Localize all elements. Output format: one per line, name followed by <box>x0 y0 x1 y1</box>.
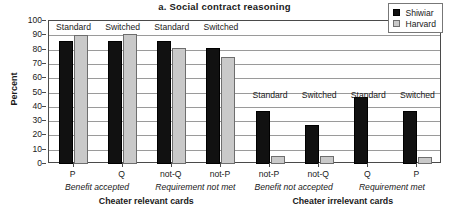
bar-harvard-5 <box>320 156 334 164</box>
y-axis-tick-label: 30 <box>33 116 42 125</box>
bar-harvard-2 <box>172 48 186 164</box>
bar-shiwiar-0 <box>59 41 73 164</box>
x-axis-tick-label: not-P <box>210 169 231 179</box>
y-axis-tick-mark <box>42 77 46 78</box>
x-axis-tick-label: not-P <box>259 169 280 179</box>
x-axis-tick-mark <box>122 163 123 167</box>
y-axis-tick-label: 20 <box>33 130 42 139</box>
y-axis-tick-mark <box>42 34 46 35</box>
y-axis-tick-mark <box>42 49 46 50</box>
chart-title: a. Social contract reasoning <box>0 1 449 12</box>
condition-annotation: Standard <box>351 90 386 100</box>
subgroup-label: Benefit accepted <box>65 182 129 192</box>
condition-annotation: Standard <box>56 22 91 32</box>
bar-shiwiar-2 <box>157 41 171 164</box>
y-axis-tick-mark <box>42 106 46 107</box>
legend-swatch-icon <box>393 9 400 16</box>
bar-harvard-7 <box>418 157 432 164</box>
subgroup-label: Benefit not accepted <box>254 182 332 192</box>
chart-legend: Shiwiar Harvard <box>388 3 443 33</box>
legend-item-harvard: Harvard <box>393 18 436 29</box>
bar-shiwiar-5 <box>305 125 319 164</box>
y-axis-tick-mark <box>42 63 46 64</box>
x-axis-tick-label: not-Q <box>160 169 182 179</box>
y-axis-tick-mark <box>42 149 46 150</box>
condition-annotation: Standard <box>253 90 288 100</box>
gridline <box>49 35 440 36</box>
bar-shiwiar-3 <box>206 48 220 164</box>
x-axis-tick-mark <box>73 163 74 167</box>
y-axis-tick-label: 50 <box>33 87 42 96</box>
x-axis-tick-label: not-Q <box>307 169 329 179</box>
bar-shiwiar-7 <box>403 111 417 164</box>
y-axis-tick-mark <box>42 163 46 164</box>
y-axis-tick-mark <box>42 134 46 135</box>
x-axis-tick-label: Q <box>118 169 125 179</box>
condition-annotation: Switched <box>302 90 337 100</box>
condition-annotation: Switched <box>105 22 140 32</box>
bar-harvard-0 <box>74 35 88 164</box>
x-axis-tick-mark <box>269 163 270 167</box>
x-axis-tick-mark <box>416 163 417 167</box>
y-axis-tick-mark <box>42 20 46 21</box>
legend-item-shiwiar: Shiwiar <box>393 7 436 18</box>
bar-harvard-1 <box>123 34 137 164</box>
legend-label: Harvard <box>405 19 436 29</box>
x-axis-tick-mark <box>367 163 368 167</box>
y-axis-tick-label: 80 <box>33 44 42 53</box>
bar-harvard-4 <box>271 156 285 164</box>
bar-shiwiar-4 <box>256 111 270 164</box>
subgroup-label: Requirement met <box>359 182 425 192</box>
y-axis-tick-label: 60 <box>33 73 42 82</box>
bar-shiwiar-1 <box>108 41 122 164</box>
y-axis-ticks: 1009080706050403020100 <box>12 20 46 163</box>
legend-label: Shiwiar <box>405 8 433 18</box>
x-axis-tick-mark <box>171 163 172 167</box>
x-axis-tick-label: P <box>414 169 420 179</box>
condition-annotation: Standard <box>154 22 189 32</box>
x-axis-tick-mark <box>220 163 221 167</box>
y-axis-tick-label: 90 <box>33 30 42 39</box>
y-axis-tick-label: 10 <box>33 144 42 153</box>
x-axis-tick-mark <box>318 163 319 167</box>
legend-swatch-icon <box>393 20 400 27</box>
group-title: Cheater relevant cards <box>99 196 194 206</box>
plot-area: StandardSwitchedStandardSwitchedStandard… <box>48 20 441 163</box>
y-axis-tick-label: 40 <box>33 102 42 111</box>
x-axis-tick-label: Q <box>364 169 371 179</box>
bar-shiwiar-6 <box>354 97 368 164</box>
condition-annotation: Switched <box>400 90 435 100</box>
x-axis-tick-label: P <box>70 169 76 179</box>
y-axis-tick-mark <box>42 120 46 121</box>
y-axis-tick-label: 70 <box>33 59 42 68</box>
chart-figure: a. Social contract reasoning Percent 100… <box>0 0 449 216</box>
bar-harvard-3 <box>221 57 235 164</box>
y-axis-tick-label: 100 <box>28 16 42 25</box>
subgroup-label: Requirement not met <box>155 182 235 192</box>
condition-annotation: Switched <box>204 22 239 32</box>
group-title: Cheater irrelevant cards <box>292 196 393 206</box>
y-axis-tick-mark <box>42 92 46 93</box>
